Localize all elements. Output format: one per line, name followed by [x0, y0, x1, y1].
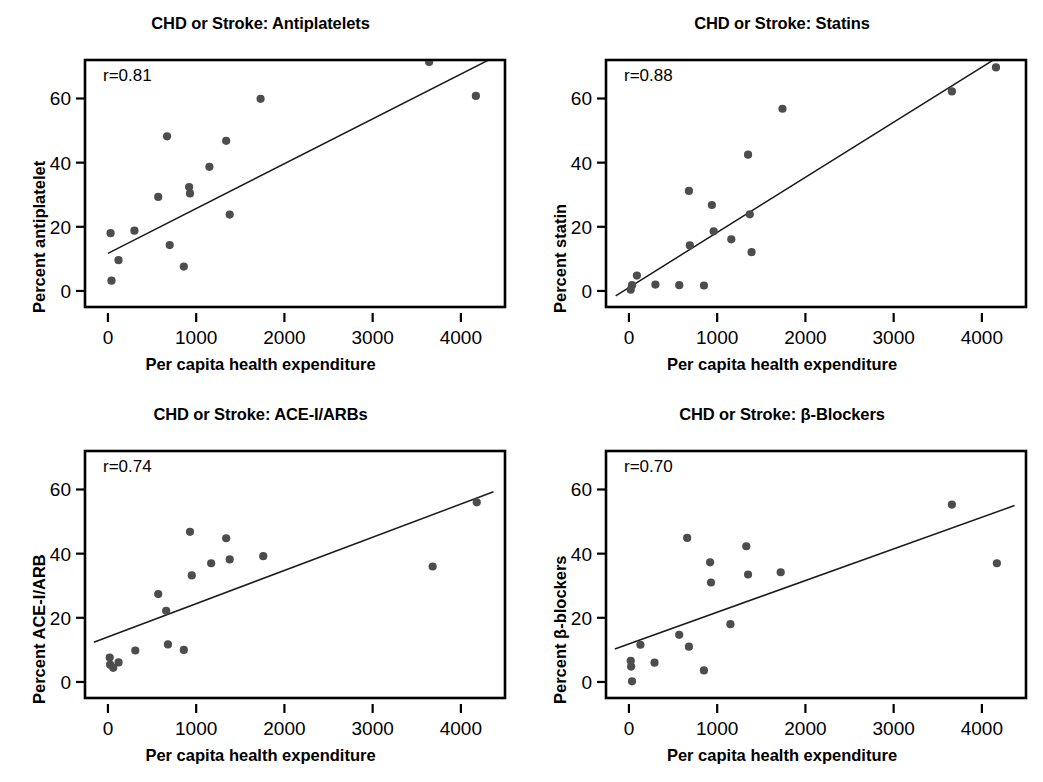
y-tick-label: 20: [50, 608, 71, 629]
y-tick-label: 60: [50, 88, 71, 109]
chart-panel-beta-blockers: CHD or Stroke: β-BlockersPercent β-block…: [521, 391, 1043, 782]
data-point: [205, 163, 213, 171]
y-tick-label: 20: [571, 217, 592, 238]
data-point: [744, 570, 752, 578]
data-point: [628, 677, 636, 685]
y-tick-label: 60: [50, 479, 71, 500]
data-point: [778, 105, 786, 113]
x-tick-label: 4000: [961, 327, 1003, 348]
regression-line: [616, 60, 994, 296]
data-point: [948, 500, 956, 508]
x-tick-label: 2000: [263, 718, 305, 739]
data-point: [186, 528, 194, 536]
y-tick-label: 40: [571, 544, 592, 565]
data-point: [130, 227, 138, 235]
axis-frame: [85, 60, 505, 307]
data-point: [992, 63, 1000, 71]
x-tick-label: 0: [624, 718, 635, 739]
data-point: [226, 211, 234, 219]
x-tick-label: 3000: [352, 327, 394, 348]
data-point: [162, 607, 170, 615]
correlation-annotation: r=0.81: [103, 66, 152, 85]
y-tick-label: 60: [571, 479, 592, 500]
x-tick-label: 0: [624, 327, 635, 348]
axis-frame: [606, 451, 1026, 698]
data-point: [675, 281, 683, 289]
data-point: [777, 568, 785, 576]
data-point: [650, 659, 658, 667]
data-point: [707, 578, 715, 586]
data-point: [473, 498, 481, 506]
data-point: [154, 193, 162, 201]
correlation-annotation: r=0.74: [103, 457, 152, 476]
data-point: [700, 281, 708, 289]
data-point: [256, 95, 264, 103]
y-tick-label: 40: [50, 153, 71, 174]
x-tick-label: 0: [103, 327, 114, 348]
y-tick-label: 0: [581, 281, 592, 302]
data-point: [180, 646, 188, 654]
x-tick-label: 1000: [696, 327, 738, 348]
data-point: [188, 571, 196, 579]
data-point: [651, 280, 659, 288]
x-tick-label: 2000: [784, 327, 826, 348]
data-point: [163, 132, 171, 140]
x-tick-label: 2000: [263, 327, 305, 348]
data-point: [114, 658, 122, 666]
data-point: [683, 534, 691, 542]
x-tick-label: 1000: [175, 718, 217, 739]
data-point: [131, 646, 139, 654]
y-tick-label: 40: [571, 153, 592, 174]
data-point: [708, 201, 716, 209]
data-point: [106, 229, 114, 237]
data-point: [710, 227, 718, 235]
data-point: [675, 631, 683, 639]
data-point: [746, 210, 754, 218]
y-tick-label: 20: [50, 217, 71, 238]
data-point: [107, 277, 115, 285]
correlation-annotation: r=0.88: [624, 66, 673, 85]
data-point: [154, 590, 162, 598]
axis-frame: [85, 451, 505, 698]
data-point: [993, 559, 1001, 567]
data-point: [186, 189, 194, 197]
regression-line: [615, 506, 1015, 649]
plot-area: 020406001000200030004000r=0.81: [0, 0, 521, 391]
x-tick-label: 3000: [873, 327, 915, 348]
data-point: [744, 151, 752, 159]
data-point: [685, 643, 693, 651]
regression-line: [108, 58, 492, 253]
data-point: [226, 555, 234, 563]
data-point: [948, 87, 956, 95]
data-point: [627, 662, 635, 670]
data-point: [636, 641, 644, 649]
data-point: [164, 640, 172, 648]
chart-panel-ace-i-arbs: CHD or Stroke: ACE-I/ARBsPercent ACE-I/A…: [0, 391, 521, 782]
y-tick-label: 20: [571, 608, 592, 629]
plot-area: 020406001000200030004000r=0.88: [521, 0, 1042, 391]
data-point: [429, 562, 437, 570]
x-tick-label: 1000: [696, 718, 738, 739]
plot-area: 020406001000200030004000r=0.74: [0, 391, 521, 782]
axis-frame: [606, 60, 1026, 307]
data-point: [222, 137, 230, 145]
x-tick-label: 3000: [352, 718, 394, 739]
data-point: [686, 241, 694, 249]
data-point: [747, 248, 755, 256]
x-tick-label: 3000: [873, 718, 915, 739]
figure-panel-grid: CHD or Stroke: AntiplateletsPercent anti…: [0, 0, 1043, 782]
data-point: [166, 241, 174, 249]
data-point: [727, 235, 735, 243]
x-tick-label: 1000: [175, 327, 217, 348]
y-tick-label: 60: [571, 88, 592, 109]
x-tick-label: 0: [103, 718, 114, 739]
data-point: [628, 281, 636, 289]
data-point: [685, 187, 693, 195]
data-point: [706, 558, 714, 566]
y-tick-label: 0: [60, 281, 71, 302]
data-point: [259, 552, 267, 560]
y-tick-label: 0: [60, 672, 71, 693]
data-point: [114, 256, 122, 264]
y-tick-label: 0: [581, 672, 592, 693]
plot-area: 020406001000200030004000r=0.70: [521, 391, 1042, 782]
